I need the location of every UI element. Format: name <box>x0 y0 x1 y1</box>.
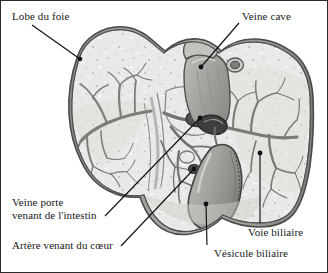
liver-interior <box>61 21 321 241</box>
dot-vesicule <box>204 202 209 207</box>
label-voie-biliaire: Voie biliaire <box>248 226 303 239</box>
label-veine-porte-line1: Veine porte <box>12 196 64 208</box>
dot-veine-cave <box>199 65 204 70</box>
label-veine-cave: Veine cave <box>242 10 291 23</box>
label-artere-venant-du-coeur: Artère venant du cœur <box>12 239 113 252</box>
label-lobe-du-foie: Lobe du foie <box>12 10 69 23</box>
label-vesicule-biliaire: Vésicule biliaire <box>214 247 288 260</box>
dot-lobe <box>78 57 82 61</box>
label-veine-porte: Veine portevenant de l'intestin <box>12 196 97 221</box>
dot-artere <box>192 167 197 172</box>
dot-veine-porte <box>198 116 203 121</box>
leader-lobe <box>32 25 80 59</box>
liver-body <box>61 21 321 241</box>
hepatic-vein-ostium-lumen <box>231 61 240 68</box>
label-veine-porte-line2: venant de l'intestin <box>12 209 97 221</box>
liver-anatomy-figure: Lobe du foie Veine cave Veine portevenan… <box>0 0 328 273</box>
dot-voie-biliaire <box>258 151 263 156</box>
